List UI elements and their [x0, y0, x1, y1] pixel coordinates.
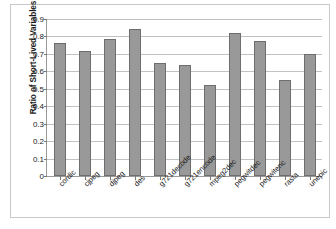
- y-tick-label: 0.4: [33, 102, 44, 111]
- x-label-slot: g721encode: [171, 181, 196, 219]
- bar[interactable]: [254, 41, 266, 176]
- y-tick-label: 0: [40, 172, 44, 181]
- chart-figure: Ratio of Short-Lived Variables 0.90.80.7…: [10, 4, 330, 218]
- bar-slot: [197, 19, 222, 176]
- x-label-slot: mpeg2dec: [197, 181, 222, 219]
- y-tick-label: 0.9: [33, 15, 44, 24]
- bar-series: [47, 19, 322, 176]
- bar[interactable]: [304, 54, 316, 176]
- x-label-slot: pegwitdec: [222, 181, 247, 219]
- y-tick-label: 0.6: [33, 67, 44, 76]
- x-axis-labels: cordiccjpegdjpegdesg721decodeg721encodem…: [46, 181, 322, 219]
- bar-slot: [297, 19, 322, 176]
- bar[interactable]: [79, 51, 91, 176]
- bar-slot: [247, 19, 272, 176]
- y-tick-label: 0.8: [33, 32, 44, 41]
- bar-slot: [122, 19, 147, 176]
- bar-slot: [147, 19, 172, 176]
- bar[interactable]: [129, 29, 141, 176]
- bar[interactable]: [154, 63, 166, 176]
- x-label-slot: djpeg: [96, 181, 121, 219]
- x-label-slot: g721decode: [146, 181, 171, 219]
- y-tick-label: 0.7: [33, 49, 44, 58]
- x-label-slot: des: [121, 181, 146, 219]
- bar-slot: [222, 19, 247, 176]
- x-label-slot: rasta: [272, 181, 297, 219]
- y-tick-label: 0.5: [33, 84, 44, 93]
- bar-slot: [72, 19, 97, 176]
- bar[interactable]: [229, 33, 241, 176]
- bar-slot: [272, 19, 297, 176]
- y-tick-label: 0.2: [33, 137, 44, 146]
- y-tick-label: 0.3: [33, 119, 44, 128]
- x-label-slot: pegwitenc: [247, 181, 272, 219]
- x-label-slot: cjpeg: [71, 181, 96, 219]
- bar-slot: [47, 19, 72, 176]
- bar-slot: [97, 19, 122, 176]
- bar[interactable]: [54, 43, 66, 176]
- bar[interactable]: [104, 39, 116, 176]
- y-tick-label: 0.1: [33, 154, 44, 163]
- bar-slot: [172, 19, 197, 176]
- x-label-slot: unepic: [297, 181, 322, 219]
- x-label-slot: cordic: [46, 181, 71, 219]
- y-tick-mark: [44, 176, 47, 177]
